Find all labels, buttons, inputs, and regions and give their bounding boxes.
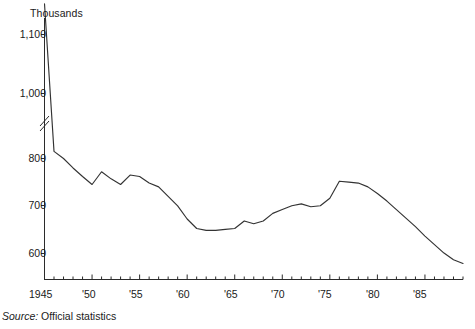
- chart-figure: Thousands 1,100 1,000 800 700 600 1945 '…: [0, 0, 475, 329]
- x-tick-label-1975: '75: [318, 288, 332, 300]
- y-tick-label-800: 800: [6, 152, 46, 164]
- x-tick-label-1955: '55: [129, 288, 143, 300]
- x-tick-label-1970: '70: [271, 288, 285, 300]
- x-tick-label-1965: '65: [224, 288, 238, 300]
- y-tick-label-1000: 1,000: [6, 87, 46, 99]
- source-text: Official statistics: [38, 310, 116, 322]
- y-tick-label-1100: 1,100: [6, 28, 46, 40]
- source-prefix: Source:: [2, 310, 38, 322]
- x-tick-label-1985: '85: [413, 288, 427, 300]
- x-tick-label-1945: 1945: [29, 288, 52, 300]
- y-tick-label-700: 700: [6, 199, 46, 211]
- y-axis-unit-label: Thousands: [30, 7, 83, 19]
- x-tick-label-1960: '60: [176, 288, 190, 300]
- chart-canvas: [0, 0, 475, 329]
- x-tick-label-1950: '50: [82, 288, 96, 300]
- x-tick-label-1980: '80: [366, 288, 380, 300]
- x-axis-ticks: [45, 275, 464, 280]
- data-series-line: [45, 4, 464, 264]
- source-note: Source: Official statistics: [2, 310, 116, 322]
- y-tick-label-600: 600: [6, 247, 46, 259]
